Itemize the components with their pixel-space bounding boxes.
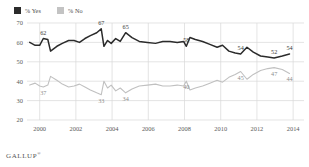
gallup-brand-text: GALLUP <box>6 152 37 160</box>
x-axis-tick-labels: 20002002200420062008201020122014 <box>33 125 300 132</box>
point-label-yes-67: 67 <box>98 19 104 26</box>
point-label-yes-58: 58 <box>183 36 189 43</box>
y-tick-50: 50 <box>17 58 23 65</box>
horizontal-gridlines <box>27 23 304 120</box>
y-tick-60: 60 <box>17 39 23 46</box>
legend-swatch-icon-no <box>57 7 64 14</box>
point-label-no-45: 45 <box>238 74 244 81</box>
point-label-yes-62: 62 <box>40 29 46 36</box>
point-label-yes-54: 54 <box>238 44 244 51</box>
x-tick-2002: 2002 <box>69 125 82 132</box>
plot-area: 706050403020 200020022004200620082010201… <box>0 18 309 146</box>
point-label-no-40: 40 <box>183 83 189 90</box>
point-label-no-44: 44 <box>286 75 292 82</box>
legend-item-yes[interactable]: % Yes <box>14 7 41 14</box>
chart-legend: % Yes % No <box>14 4 83 16</box>
data-point-labels: 6267655854525437333440454744 <box>40 19 292 104</box>
y-tick-30: 30 <box>17 97 23 104</box>
point-label-yes-54: 54 <box>286 44 292 51</box>
x-tick-2012: 2012 <box>251 125 264 132</box>
x-tick-2006: 2006 <box>142 125 155 132</box>
legend-item-no[interactable]: % No <box>57 7 83 14</box>
x-tick-2008: 2008 <box>178 125 191 132</box>
point-label-yes-65: 65 <box>123 23 129 30</box>
point-label-yes-52: 52 <box>271 48 277 55</box>
y-tick-70: 70 <box>17 19 23 26</box>
trademark-icon: ® <box>37 151 41 156</box>
point-label-no-47: 47 <box>271 70 277 77</box>
gallup-brand: GALLUP® <box>6 151 41 160</box>
gallup-trend-chart: % Yes % No 706050403020 2000200220042006… <box>0 0 309 167</box>
x-tick-2004: 2004 <box>106 125 120 132</box>
x-tick-2014: 2014 <box>287 125 301 132</box>
y-tick-20: 20 <box>17 116 23 123</box>
point-label-no-33: 33 <box>98 97 104 104</box>
point-label-no-34: 34 <box>123 95 129 102</box>
y-tick-40: 40 <box>17 78 23 85</box>
legend-label-no: % No <box>68 7 83 14</box>
y-axis-tick-labels: 706050403020 <box>17 19 23 123</box>
legend-swatch-icon-yes <box>14 7 21 14</box>
legend-label-yes: % Yes <box>25 7 41 14</box>
plot-svg: 706050403020 200020022004200620082010201… <box>0 18 309 146</box>
x-tick-2000: 2000 <box>33 125 46 132</box>
series-line-yes <box>30 29 290 58</box>
vertical-gridlines <box>40 23 293 120</box>
point-label-no-37: 37 <box>40 89 46 96</box>
x-tick-2010: 2010 <box>214 125 227 132</box>
